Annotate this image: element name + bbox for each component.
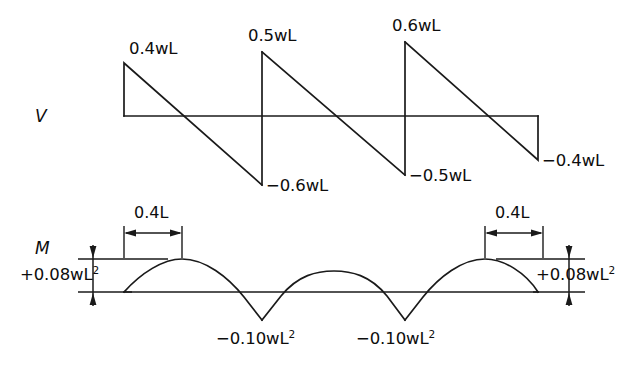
shear-label-support1-positive-text: 0.5wL — [248, 26, 296, 45]
shear-label-support2-negative: −0.5wL — [409, 168, 471, 185]
moment-label-positive-left-text: +0.08wL — [20, 265, 93, 284]
moment-span-3-curve — [405, 259, 538, 320]
shear-label-support2-positive-text: 0.6wL — [392, 16, 440, 35]
moment-label-positive-left-exponent: 2 — [93, 264, 100, 276]
moment-label-negative-support2-exponent: 2 — [429, 328, 436, 340]
moment-label-positive-right: +0.08wL2 — [536, 267, 615, 284]
moment-label-positive-left: +0.08wL2 — [20, 267, 99, 284]
shear-label-support1-negative-text: −0.6wL — [266, 176, 328, 195]
shear-label-left-end-positive-text: 0.4wL — [129, 39, 177, 58]
moment-label-negative-support1-text: −0.10wL — [216, 329, 289, 348]
moment-dim-left-arrowhead-start — [124, 230, 136, 237]
moment-label-negative-support1: −0.10wL2 — [216, 331, 295, 348]
shear-label-support1-negative: −0.6wL — [266, 178, 328, 195]
moment-dim-label-right: 0.4L — [495, 205, 529, 221]
shear-label-support2-positive: 0.6wL — [392, 18, 440, 35]
moment-right-measure-arrow-down — [566, 246, 573, 258]
moment-label-negative-support2-text: −0.10wL — [356, 329, 429, 348]
shear-label-support2-negative-text: −0.5wL — [409, 166, 471, 185]
moment-span-2-curve — [262, 271, 405, 320]
moment-label-negative-support2: −0.10wL2 — [356, 331, 435, 348]
moment-dim-left-arrowhead-end — [170, 230, 182, 237]
shear-span-3 — [405, 42, 538, 160]
shear-span-2 — [262, 52, 405, 175]
moment-span-1-curve — [124, 259, 262, 320]
moment-label-positive-right-text: +0.08wL — [536, 265, 609, 284]
moment-dim-label-right-text: 0.4L — [495, 203, 529, 222]
moment-dim-right-arrowhead-start — [485, 230, 497, 237]
shear-span-1 — [124, 63, 262, 185]
moment-left-measure-arrow-up — [90, 293, 97, 305]
shear-diagram-group — [124, 42, 538, 185]
shear-label-support1-positive: 0.5wL — [248, 28, 296, 45]
moment-label-positive-right-exponent: 2 — [609, 264, 616, 276]
shear-label-right-end-negative-text: −0.4wL — [542, 151, 604, 170]
moment-dim-label-left: 0.4L — [134, 205, 168, 221]
moment-label-negative-support1-exponent: 2 — [289, 328, 296, 340]
moment-dim-label-left-text: 0.4L — [134, 203, 168, 222]
shear-label-left-end-positive: 0.4wL — [129, 41, 177, 58]
moment-diagram-group — [78, 226, 585, 320]
shear-axis-label: V — [35, 108, 47, 125]
shear-label-right-end-negative: −0.4wL — [542, 153, 604, 170]
moment-right-measure-arrow-up — [566, 293, 573, 305]
figure-canvas: V M 0.4wL 0.5wL 0.6wL −0.6wL −0.5wL −0.4… — [0, 0, 644, 366]
moment-axis-label: M — [35, 240, 50, 257]
moment-dim-right-arrowhead-end — [531, 230, 543, 237]
moment-left-measure-arrow-down — [90, 246, 97, 258]
